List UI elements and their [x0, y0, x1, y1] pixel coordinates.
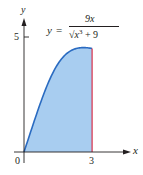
fraction-bar: [69, 26, 119, 27]
y-tick-label-5: 5: [14, 32, 19, 42]
x-axis-label: x: [133, 145, 138, 156]
x-tick-label-3: 3: [89, 156, 94, 166]
formula-numerator: 9x: [85, 13, 94, 24]
x-axis-arrow-icon: [123, 150, 131, 155]
formula-equals: =: [56, 24, 62, 36]
formula-denominator: √x3 + 9: [69, 28, 98, 40]
x-tick-label-0: 0: [15, 156, 20, 166]
y-axis-label: y: [21, 5, 25, 15]
function-formula: y = 9x √x3 + 9: [47, 13, 127, 47]
y-axis-arrow-icon: [22, 18, 27, 26]
formula-lhs: y: [47, 24, 52, 36]
